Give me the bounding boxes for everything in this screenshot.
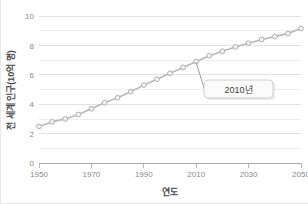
data-point-1955 [50, 120, 55, 125]
callout-label: 2010년 [224, 85, 252, 95]
population-line-chart: 0 2 4 6 8 10 1950 1970 1990 2010 2030 20… [1, 0, 308, 204]
data-point-2005 [181, 65, 186, 70]
data-point-2035 [259, 37, 264, 42]
y-tick-label-8: 8 [30, 42, 35, 51]
x-tick-label-1970: 1970 [83, 170, 101, 179]
y-axis-ticklabels: 0 2 4 6 8 10 [25, 12, 34, 168]
data-point-1980 [115, 95, 120, 100]
data-point-2020 [220, 49, 225, 54]
data-point-1985 [128, 89, 133, 94]
data-point-2025 [233, 45, 238, 50]
x-tick-label-2050: 2050 [292, 170, 308, 179]
annotation-callout-2010[interactable]: 2010년 [204, 80, 275, 100]
y-tick-label-4: 4 [30, 100, 35, 109]
x-axis-title: 연도 [162, 187, 179, 197]
x-tick-label-2030: 2030 [240, 170, 258, 179]
data-point-2030 [246, 41, 251, 46]
data-point-1970 [89, 106, 94, 111]
x-tick-label-1990: 1990 [135, 170, 153, 179]
y-tick-label-10: 10 [25, 12, 34, 21]
data-point-2045 [286, 31, 291, 36]
x-tick-label-1950: 1950 [30, 170, 48, 179]
data-point-1975 [102, 100, 107, 105]
data-point-1995 [155, 77, 160, 82]
population-series-markers [37, 26, 304, 129]
x-axis-ticklabels: 1950 1970 1990 2010 2030 2050 [30, 170, 308, 179]
data-point-1990 [141, 83, 146, 88]
data-point-1960 [63, 117, 68, 122]
chart-figure: 0 2 4 6 8 10 1950 1970 1990 2010 2030 20… [0, 0, 308, 204]
x-tick-label-2010: 2010 [187, 170, 205, 179]
data-point-2050 [299, 26, 304, 31]
annotation-leader-line [196, 63, 204, 90]
x-axis-tickmarks [39, 163, 301, 167]
y-tick-label-2: 2 [30, 130, 35, 139]
y-tick-label-6: 6 [30, 71, 35, 80]
y-tick-label-0: 0 [30, 159, 35, 168]
data-point-2000 [168, 71, 173, 76]
data-point-1950 [37, 124, 42, 129]
data-point-2040 [272, 34, 277, 39]
data-point-2015 [207, 53, 212, 58]
data-point-1965 [76, 112, 81, 117]
y-axis-title: 전 세계 인구(10억 명) [5, 50, 16, 130]
